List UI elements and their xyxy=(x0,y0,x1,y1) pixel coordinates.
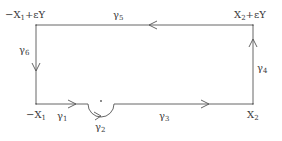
corner-dot-top-right xyxy=(252,24,254,26)
label-top-left: −X1+εY xyxy=(5,9,46,22)
label-gamma1: γ1 xyxy=(57,110,67,123)
label-bottom-right: X2 xyxy=(247,109,259,122)
corner-dot-bottom-left xyxy=(35,103,37,105)
label-gamma6: γ6 xyxy=(19,44,30,57)
label-gamma4: γ4 xyxy=(257,62,268,75)
label-gamma5: γ5 xyxy=(113,9,123,22)
singularity-dot xyxy=(100,100,102,102)
label-bottom-left: −X1 xyxy=(26,109,46,122)
label-gamma3: γ3 xyxy=(159,110,169,123)
label-top-right: X2+εY xyxy=(234,9,266,22)
corner-dot-top-left xyxy=(35,24,37,26)
edge-gamma2 xyxy=(88,104,114,117)
label-gamma2: γ2 xyxy=(95,121,105,134)
corner-dot-bottom-right xyxy=(252,103,254,105)
contour-diagram: −X1+εY X2+εY −X1 X2 γ1 γ2 γ3 γ4 γ5 γ6 xyxy=(0,0,282,141)
